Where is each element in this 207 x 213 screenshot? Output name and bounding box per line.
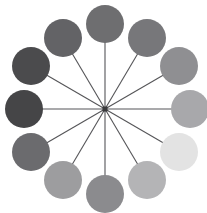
wheel-canvas [0,0,207,213]
radial-wheel-diagram [0,0,207,213]
node-2-oclock [160,47,198,85]
node-9-oclock [5,90,43,128]
node-6-oclock [86,175,124,213]
node-4-oclock [160,133,198,171]
node-7-oclock [44,161,82,199]
node-8-oclock [12,133,50,171]
node-1-oclock [128,19,166,57]
node-11-oclock [44,19,82,57]
hub-layer [103,107,108,112]
node-10-oclock [12,47,50,85]
node-12-oclock [86,5,124,43]
center-hub [103,107,108,112]
node-5-oclock [128,161,166,199]
